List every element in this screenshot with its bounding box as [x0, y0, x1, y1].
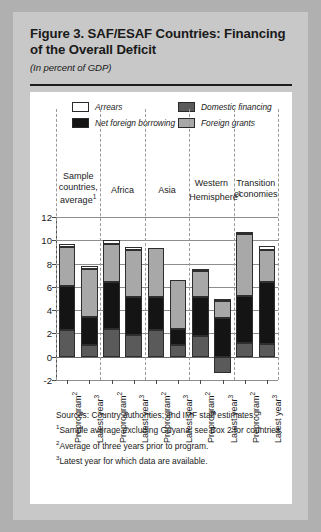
bar-segment: [59, 247, 76, 285]
group-heading: Western Hemisphere1: [189, 178, 233, 202]
bar-segment: [236, 234, 253, 296]
bar-segment: [125, 250, 142, 298]
chart-panel: ArrearsNet foreign borrowingDomestic fin…: [30, 92, 292, 504]
group-separator: [56, 109, 57, 380]
bar-segment: [192, 271, 209, 298]
group-heading-label: Asia: [158, 185, 176, 195]
bar-segment: [125, 335, 142, 357]
bar-segment: [259, 250, 276, 283]
title-block: Figure 3. SAF/ESAF Countries: Financing …: [30, 26, 292, 73]
group-heading: Sample countries, average1: [56, 171, 100, 206]
bar-stack: [214, 217, 231, 380]
group-heading-label: Western Hemisphere: [189, 178, 238, 202]
bar-segment: [148, 248, 165, 297]
bar-segment: [103, 240, 120, 243]
axes: -2024681012Sample countries, average1Afr…: [56, 217, 278, 380]
figure-card: Figure 3. SAF/ESAF Countries: Financing …: [13, 12, 308, 520]
x-tick-mark: [267, 380, 268, 384]
x-tick-mark: [134, 380, 135, 384]
bar-segment: [81, 317, 98, 345]
x-axis-label-footnote: 2: [249, 392, 256, 396]
note-sources: Sources: Country authorities; and IMF st…: [56, 410, 286, 421]
bar-segment: [170, 345, 187, 357]
y-tick-label: 0: [47, 351, 52, 362]
x-tick-mark: [112, 380, 113, 384]
x-axis-label-footnote: 2: [71, 392, 78, 396]
group-heading-label: Transition economies: [234, 178, 278, 199]
bar-stack: [59, 217, 76, 380]
note-1-text: Sample average excluding Guyana; see Box…: [59, 425, 282, 435]
bar-segment: [81, 269, 98, 317]
x-axis-label-footnote: 3: [271, 395, 278, 399]
x-axis-label-footnote: 3: [138, 395, 145, 399]
y-tick-mark: [52, 380, 56, 381]
y-tick-label: 2: [47, 328, 52, 339]
note-1: 1Sample average excluding Guyana; see Bo…: [56, 421, 286, 436]
group-separator: [234, 109, 235, 380]
bar-segment: [125, 297, 142, 334]
group-separator: [278, 109, 279, 380]
x-tick-mark: [178, 380, 179, 384]
group-heading-footnote: 1: [93, 193, 97, 200]
group-heading: Asia: [145, 185, 189, 196]
y-tick-label: 12: [41, 212, 52, 223]
x-tick-mark: [89, 380, 90, 384]
figure-title: Figure 3. SAF/ESAF Countries: Financing …: [30, 26, 292, 57]
bar-segment: [81, 345, 98, 357]
y-tick-label: 8: [47, 258, 52, 269]
bar-stack: [148, 217, 165, 380]
bar-stack: [192, 217, 209, 380]
bar-segment: [170, 329, 187, 345]
bar-segment: [125, 247, 142, 249]
x-axis-label-footnote: 3: [227, 395, 234, 399]
x-tick-mark: [223, 380, 224, 384]
group-separator: [189, 109, 190, 380]
x-tick-mark: [156, 380, 157, 384]
bar-segment: [103, 282, 120, 329]
bar-segment: [259, 282, 276, 344]
x-axis-label-footnote: 2: [160, 392, 167, 396]
bar-segment: [148, 330, 165, 357]
figure-subtitle: (In percent of GDP): [30, 62, 292, 73]
note-2: 2Average of three years prior to program…: [56, 437, 286, 452]
figure-notes: Sources: Country authorities; and IMF st…: [56, 410, 286, 467]
group-separator: [100, 109, 101, 380]
y-tick-label: 4: [47, 305, 52, 316]
bar-segment: [214, 318, 231, 356]
group-heading: Africa: [100, 185, 144, 196]
bar-segment: [192, 336, 209, 357]
note-2-text: Average of three years prior to program.: [59, 440, 208, 450]
x-axis-label-footnote: 2: [116, 392, 123, 396]
bar-segment: [59, 244, 76, 247]
bar-segment: [59, 330, 76, 357]
y-tick-label: -2: [43, 375, 52, 386]
x-axis-label-footnote: 2: [204, 392, 211, 396]
x-axis-label-footnote: 3: [182, 395, 189, 399]
bar-segment: [170, 280, 187, 329]
note-3: 3Latest year for which data are availabl…: [56, 452, 286, 467]
group-heading: Transition economies: [234, 178, 278, 199]
bar-stack: [236, 217, 253, 380]
bar-segment: [214, 357, 231, 373]
bar-segment: [59, 286, 76, 330]
x-axis-label-footnote: 3: [93, 395, 100, 399]
bar-segment: [214, 301, 231, 318]
bar-segment: [148, 297, 165, 330]
bar-segment: [236, 296, 253, 343]
group-heading-label: Africa: [111, 185, 134, 195]
bar-segment: [192, 269, 209, 271]
bar-stack: [103, 217, 120, 380]
x-tick-mark: [67, 380, 68, 384]
bar-stack: [81, 217, 98, 380]
bar-segment: [236, 343, 253, 357]
bar-segment: [103, 329, 120, 357]
bar-segment: [81, 266, 98, 269]
y-tick-label: 6: [47, 281, 52, 292]
bar-stack: [170, 217, 187, 380]
bar-segment: [103, 244, 120, 282]
bar-stack: [125, 217, 142, 380]
group-separator: [145, 109, 146, 380]
title-divider: [30, 84, 292, 86]
y-tick-label: 10: [41, 235, 52, 246]
bar-segment: [236, 232, 253, 234]
